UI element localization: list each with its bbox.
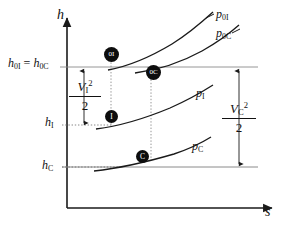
h0c-subscript: 0C	[39, 62, 48, 71]
equals-sign: =	[21, 56, 34, 70]
y-axis-label: h	[57, 8, 64, 22]
curve-label-p0c: p0C	[216, 27, 231, 41]
annotation-vc-squared-over-2: VC2 2	[222, 101, 256, 134]
hs-diagram-figure: h s h0I = h0C hI hC p0I p0C pI pC VI2 2 …	[0, 0, 288, 225]
pi-subscript: I	[202, 92, 205, 101]
x-axis-label: s	[265, 205, 270, 219]
state-point-c: C	[136, 150, 149, 163]
state-point-0i: 0I	[104, 47, 119, 62]
hc-subscript: C	[48, 164, 53, 173]
tick-label-hi: hI	[45, 116, 54, 130]
p0c-subscript: 0C	[222, 32, 231, 41]
pc-subscript: C	[198, 145, 203, 154]
state-point-i: I	[105, 110, 118, 123]
hi-subscript: I	[51, 121, 54, 130]
curve-label-p0i: p0I	[216, 8, 229, 22]
vc-base: V	[230, 101, 238, 116]
curve-label-pi: pI	[196, 87, 205, 101]
vi-denominator: 2	[69, 98, 101, 112]
vc-denominator: 2	[222, 120, 256, 134]
annotation-vi-squared-over-2: VI2 2	[69, 79, 101, 112]
state-point-0c: 0C	[146, 65, 161, 80]
p0i-subscript: 0I	[222, 13, 229, 22]
curve-label-pc: pC	[192, 140, 203, 154]
vc-exponent: 2	[244, 100, 248, 110]
h0i-subscript: 0I	[14, 62, 21, 71]
tick-label-hc: hC	[42, 159, 53, 173]
curve-p0i	[108, 12, 213, 70]
vc-numerator: VC2	[222, 101, 256, 117]
vi-numerator: VI2	[69, 79, 101, 95]
vi-fraction-bar	[69, 96, 101, 97]
vi-exponent: 2	[88, 78, 92, 88]
vc-fraction-bar	[222, 118, 256, 119]
tick-label-h0: h0I = h0C	[8, 57, 49, 71]
